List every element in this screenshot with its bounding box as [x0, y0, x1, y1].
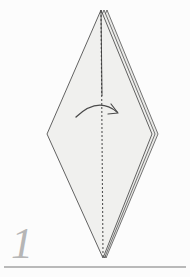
step-number: 1: [11, 222, 33, 266]
origami-step-figure: 1: [0, 0, 190, 277]
paper-layer-front: [47, 10, 152, 258]
